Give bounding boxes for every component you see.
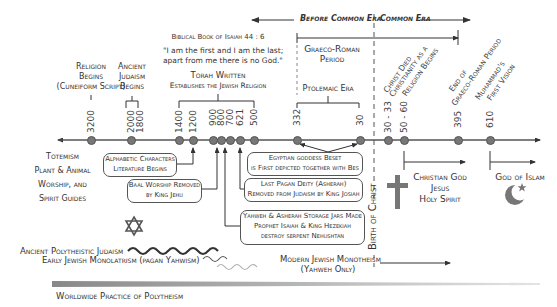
timeline-dot <box>226 136 235 145</box>
tick-610: 610 <box>485 111 495 128</box>
ancient-judaism-label: Ancient Judaism Begins <box>112 62 152 92</box>
tick-1200: 1200 <box>188 110 198 133</box>
modern-monotheism-label: Modern Jewish Monotheism (Yahweh Only) <box>280 254 376 274</box>
torah-written-label: Torah Written <box>163 70 273 80</box>
totemism-label: Totemism Plant & Animal Worship, and Spi… <box>30 150 95 206</box>
tick-1400: 1400 <box>174 110 184 133</box>
tick-1800: 1800 <box>135 110 145 133</box>
tick-500: 500 <box>249 109 259 126</box>
isaiah-quote-line1: "I am the first and I am the last; <box>163 46 273 56</box>
timeline-dot <box>250 136 259 145</box>
birth-of-christ-label: Birth of Christ <box>367 183 378 250</box>
timeline-dot <box>175 136 184 145</box>
timeline-dot <box>217 136 226 145</box>
christian-god-label: Christian God Jesus Holy Spirit <box>400 172 480 205</box>
timeline-dot <box>486 136 495 145</box>
worldwide-polytheism-label: Worldwide Practice of Polytheism <box>56 291 183 301</box>
storage-jars-box: Yahweh & Asherah Storage Jars Made Proph… <box>240 210 365 245</box>
timeline-dot <box>454 136 463 145</box>
timeline-dot <box>400 136 409 145</box>
crescent-icon <box>505 183 529 205</box>
asherah-box: Last Pagan Deity (Asherah) Removed from … <box>244 178 363 202</box>
timeline-dot <box>87 136 96 145</box>
timeline-dot <box>384 136 393 145</box>
tick-621: 621 <box>235 109 245 126</box>
tick-30-33: 30 - 33 <box>383 101 393 133</box>
timeline-dot <box>236 136 245 145</box>
graeco-roman-label: Graeco-Roman Period <box>302 44 362 64</box>
ptolemaic-label: Ptolemaic Era <box>300 84 356 94</box>
egypt-box: Egyptian goddess Beset is First depicted… <box>247 152 363 176</box>
baal-box: Baal Worship Removed by King Jehu <box>127 179 202 203</box>
tick-3200: 3200 <box>86 110 96 133</box>
ce-label: Common Era <box>380 14 431 23</box>
alphabet-box: Alphabetic Characters Literature Begins <box>103 153 177 177</box>
bce-label: Before Common Era <box>300 14 381 23</box>
star-of-david-icon <box>126 217 142 235</box>
tick-395: 395 <box>453 111 463 128</box>
tick-30: 30 <box>355 115 365 126</box>
timeline-dot <box>127 136 136 145</box>
timeline-dot <box>293 136 302 145</box>
torah-establishes-label: Establishes the Jewish Religion <box>163 81 273 91</box>
god-of-islam-label: God of Islam <box>490 172 550 182</box>
timeline-dot <box>189 136 198 145</box>
isaiah-quote-line2: apart from me there is no God." <box>163 56 273 66</box>
timeline-dot <box>356 136 365 145</box>
tick-700: 700 <box>225 109 235 126</box>
isaiah-reference: Biblical Book of Isaiah 44 : 6 <box>168 32 268 42</box>
early-monolatrism-label: Early Jewish Monolatrism (pagan Yahwism) <box>42 255 200 265</box>
tick-50-60: 50 - 60 <box>399 101 409 133</box>
tick-332: 332 <box>292 109 302 126</box>
